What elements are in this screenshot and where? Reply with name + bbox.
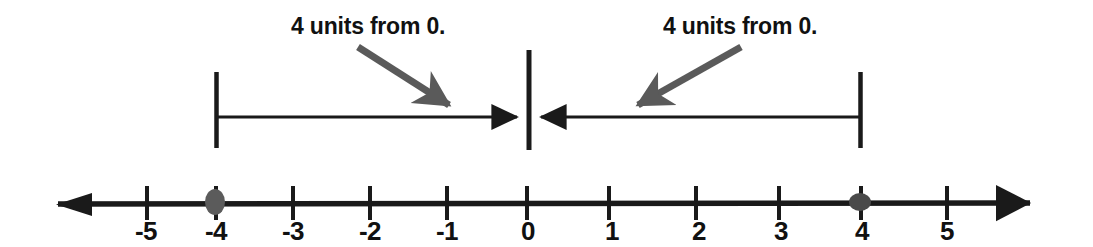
axis-left-arrowhead-icon bbox=[56, 193, 92, 216]
axis-label-3: 3 bbox=[774, 216, 788, 247]
annotation-right-label: 4 units from 0. bbox=[663, 13, 817, 40]
axis-label-1: 1 bbox=[605, 216, 619, 247]
axis-label--2: -2 bbox=[359, 216, 381, 247]
annotation-right-pointer-arrow-icon bbox=[638, 47, 741, 105]
axis-label--5: -5 bbox=[135, 216, 157, 247]
callout-pointer-group bbox=[358, 47, 741, 105]
figure-canvas bbox=[0, 0, 1093, 247]
measure-bracket-group bbox=[217, 50, 861, 150]
plot-point-negative-4 bbox=[205, 189, 225, 215]
axis-label-2: 2 bbox=[692, 216, 706, 247]
plot-point-positive-4 bbox=[849, 193, 871, 211]
axis-label-0: 0 bbox=[521, 216, 535, 247]
number-line-axis bbox=[58, 203, 1030, 204]
annotation-left-pointer-arrow-icon bbox=[358, 47, 449, 105]
annotation-left-label: 4 units from 0. bbox=[291, 13, 445, 40]
number-line-axis-group bbox=[56, 186, 1030, 220]
axis-label--3: -3 bbox=[282, 216, 304, 247]
axis-label--1: -1 bbox=[436, 216, 458, 247]
axis-label-4: 4 bbox=[855, 216, 869, 247]
axis-label-5: 5 bbox=[940, 216, 954, 247]
axis-label--4: -4 bbox=[205, 216, 227, 247]
number-line-figure: 4 units from 0. 4 units from 0. -5 -4 -3… bbox=[0, 0, 1093, 247]
